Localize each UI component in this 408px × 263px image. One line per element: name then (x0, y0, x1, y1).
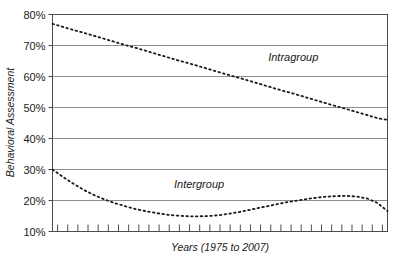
y-axis-tick-label: 50% (23, 102, 45, 114)
y-axis-tick-label: 40% (23, 133, 45, 145)
y-axis-tick-label: 70% (23, 40, 45, 52)
y-axis-title: Behavioral Assessment (4, 67, 16, 177)
chart-figure: 80%70%60%50%40%30%20%10% Intragroup Inte… (0, 0, 408, 263)
series-label-intragroup: Intragroup (268, 51, 318, 63)
x-axis-title: Years (1975 to 2007) (171, 241, 269, 253)
series-label-intergroup: Intergroup (174, 178, 224, 190)
chart-background (0, 0, 408, 263)
y-axis-tick-label: 10% (23, 226, 45, 238)
y-axis-tick-label: 30% (23, 164, 45, 176)
y-axis-tick-label: 60% (23, 71, 45, 83)
y-axis-tick-label: 20% (23, 195, 45, 207)
y-axis-tick-label: 80% (23, 9, 45, 21)
behavioral-assessment-line-chart: 80%70%60%50%40%30%20%10% Intragroup Inte… (0, 0, 408, 263)
